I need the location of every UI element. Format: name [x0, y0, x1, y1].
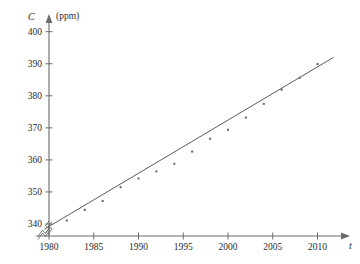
y-tick-label-350: 350 [28, 187, 43, 197]
data-point [66, 219, 68, 221]
data-point [281, 89, 283, 91]
y-tick-label-390: 390 [28, 59, 43, 69]
data-point [316, 63, 318, 65]
data-point [137, 177, 139, 179]
x-tick-label-1980: 1980 [40, 242, 59, 252]
x-tick-label-1990: 1990 [129, 242, 148, 252]
y-axis-unit-label: (ppm) [56, 11, 79, 22]
x-tick-label-2010: 2010 [308, 242, 327, 252]
y-tick-label-340: 340 [28, 219, 43, 229]
data-point [209, 138, 211, 140]
data-point [227, 129, 229, 131]
data-point [155, 170, 157, 172]
regression-line-path [45, 57, 334, 229]
x-tick-label-1995: 1995 [174, 242, 193, 252]
data-point [120, 186, 122, 188]
co2-concentration-chart: 340350360370380390400 198019851990199520… [0, 0, 360, 264]
data-point [173, 163, 175, 165]
data-point [84, 209, 86, 211]
data-point [191, 151, 193, 153]
y-tick-label-360: 360 [28, 155, 43, 165]
y-axis-label: C [28, 11, 35, 22]
y-tick-label-380: 380 [28, 91, 43, 101]
data-point [102, 200, 104, 202]
y-axis-tick-labels: 340350360370380390400 [28, 27, 43, 229]
x-tick-label-2005: 2005 [263, 242, 282, 252]
y-tick-label-370: 370 [28, 123, 43, 133]
x-axis [36, 233, 350, 240]
data-point [48, 227, 50, 229]
regression-line [45, 57, 334, 229]
data-point [245, 117, 247, 119]
x-tick-label-1985: 1985 [84, 242, 103, 252]
y-axis [46, 14, 53, 236]
data-point [263, 103, 265, 105]
data-point [299, 77, 301, 79]
x-axis-arrowhead [341, 233, 350, 240]
chart-canvas: 340350360370380390400 198019851990199520… [0, 0, 360, 264]
y-axis-arrowhead [46, 14, 53, 23]
y-tick-label-400: 400 [28, 27, 43, 37]
x-tick-label-2000: 2000 [219, 242, 238, 252]
x-axis-tick-labels: 1980198519901995200020052010 [40, 242, 328, 252]
x-axis-label: t [349, 240, 352, 251]
